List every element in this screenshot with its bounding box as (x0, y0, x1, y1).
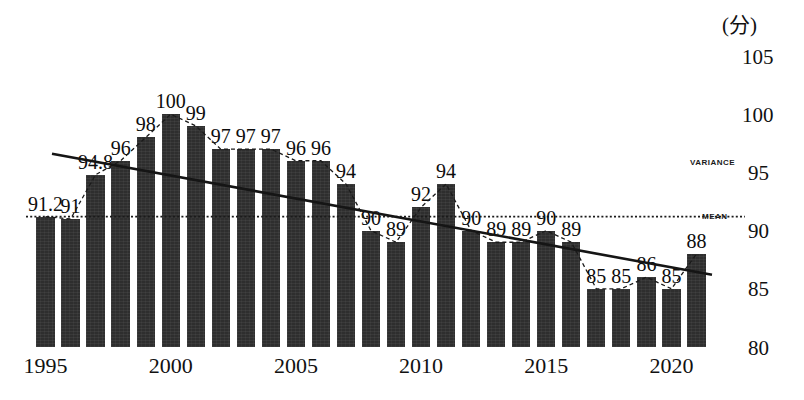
variance-dashed-line (46, 114, 697, 289)
x-tick-label: 1995 (11, 353, 81, 379)
x-tick-label: 2000 (136, 353, 206, 379)
bar-chart: (分) 105 100 95 90 85 80 VARIANCE MEAN 91… (0, 0, 804, 400)
chart-lines-overlay (0, 0, 804, 400)
x-tick-label: 2015 (511, 353, 581, 379)
trend-solid-line (52, 154, 712, 275)
x-tick-label: 2020 (636, 353, 706, 379)
x-tick-label: 2005 (261, 353, 331, 379)
x-tick-label: 2010 (386, 353, 456, 379)
